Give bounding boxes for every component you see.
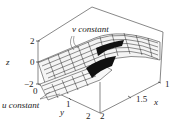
x-tick-1: 1 — [165, 80, 170, 89]
v-constant-label: v constant — [72, 25, 109, 34]
z-tick-0: 0 — [30, 58, 35, 67]
x-axis-label: x — [154, 98, 158, 107]
y-tick-0: 0 — [33, 87, 38, 96]
y-tick-2: 2 — [86, 112, 91, 121]
u-constant-label: u constant — [2, 101, 39, 110]
z-axis-label: z — [6, 58, 10, 67]
y-tick-1: 1 — [66, 100, 71, 109]
x-tick-2: 2 — [100, 112, 105, 121]
z-tick-2: 2 — [30, 37, 35, 46]
y-axis-label: y — [60, 108, 64, 117]
x-tick-1-5: 1.5 — [136, 95, 147, 104]
